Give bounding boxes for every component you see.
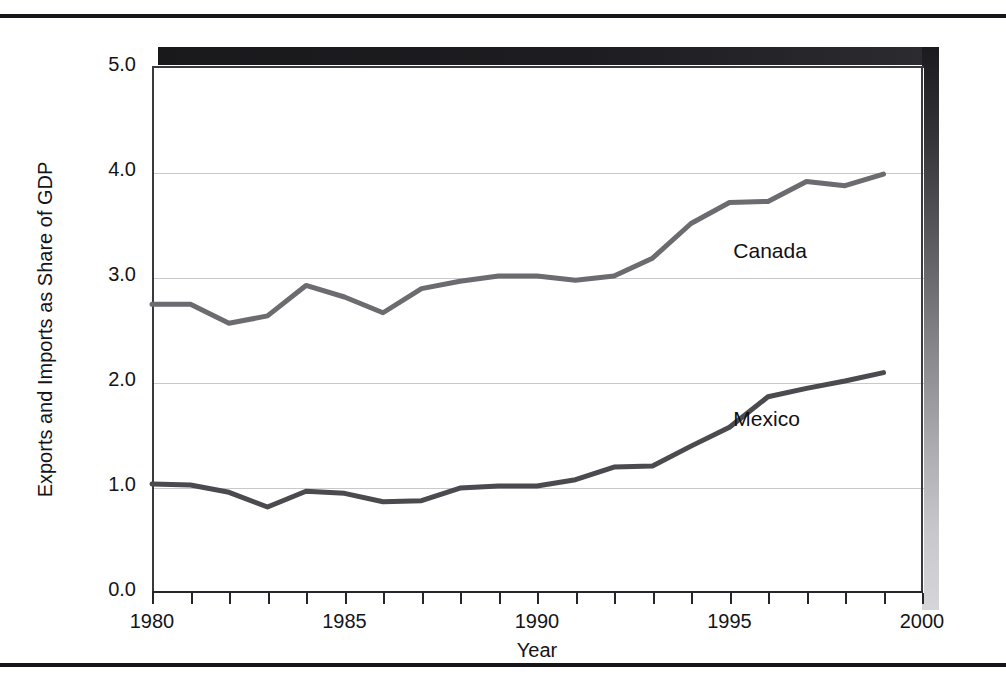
series-lines xyxy=(152,66,922,591)
x-tick-1984 xyxy=(306,593,308,604)
line-chart: 0.01.02.03.04.05.0 19801985199019952000 … xyxy=(0,18,1006,663)
x-tick-label-1985: 1985 xyxy=(322,610,367,633)
x-tick-1998 xyxy=(845,593,847,604)
series-line-mexico xyxy=(152,373,884,507)
x-tick-1993 xyxy=(653,593,655,604)
x-tick-1981 xyxy=(191,593,193,604)
plot-shadow-right xyxy=(922,47,939,610)
x-tick-1985 xyxy=(345,593,347,604)
series-annotation-mexico: Mexico xyxy=(733,407,800,431)
x-tick-1996 xyxy=(768,593,770,604)
x-tick-1995 xyxy=(730,593,732,604)
plot-shadow-top xyxy=(158,47,928,65)
series-annotation-canada: Canada xyxy=(733,239,807,263)
figure-page: 0.01.02.03.04.05.0 19801985199019952000 … xyxy=(0,0,1006,684)
x-tick-1988 xyxy=(460,593,462,604)
x-tick-1983 xyxy=(268,593,270,604)
y-tick-label-3.0: 3.0 xyxy=(0,263,136,286)
x-tick-1997 xyxy=(807,593,809,604)
y-tick-label-4.0: 4.0 xyxy=(0,158,136,181)
x-tick-1991 xyxy=(576,593,578,604)
x-tick-1987 xyxy=(422,593,424,604)
x-tick-1986 xyxy=(383,593,385,604)
y-axis-tick-labels: 0.01.02.03.04.05.0 xyxy=(0,18,140,663)
x-tick-label-1980: 1980 xyxy=(130,610,175,633)
x-tick-1990 xyxy=(537,593,539,604)
x-tick-1989 xyxy=(499,593,501,604)
x-tick-label-1990: 1990 xyxy=(515,610,560,633)
x-tick-1980 xyxy=(152,593,154,604)
x-tick-1992 xyxy=(614,593,616,604)
x-tick-label-1995: 1995 xyxy=(707,610,752,633)
y-tick-label-1.0: 1.0 xyxy=(0,473,136,496)
bottom-rule xyxy=(0,663,1006,667)
x-tick-1994 xyxy=(691,593,693,604)
x-axis-title: Year xyxy=(517,639,557,662)
y-tick-label-2.0: 2.0 xyxy=(0,368,136,391)
x-tick-1982 xyxy=(229,593,231,604)
x-axis-tick-marks xyxy=(152,593,923,605)
y-tick-label-0.0: 0.0 xyxy=(0,578,136,601)
x-tick-label-2000: 2000 xyxy=(900,610,945,633)
x-tick-2000 xyxy=(922,593,924,604)
y-axis-title: Exports and Imports as Share of GDP xyxy=(34,60,57,600)
y-tick-label-5.0: 5.0 xyxy=(0,53,136,76)
x-tick-1999 xyxy=(884,593,886,604)
x-axis-tick-labels: 19801985199019952000 xyxy=(0,610,1006,638)
